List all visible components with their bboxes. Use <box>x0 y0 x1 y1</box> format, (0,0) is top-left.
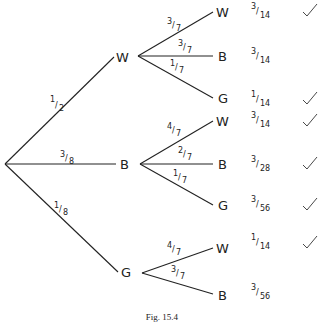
fraction-slash: / <box>59 205 62 214</box>
fraction-slash: / <box>256 200 259 209</box>
result-bb: 3 / 28 <box>251 155 270 173</box>
prob-gb: 3 / 7 <box>171 265 185 281</box>
branch-w-to-w <box>138 12 213 56</box>
leaf-bw: W <box>216 114 229 129</box>
svg-text:7: 7 <box>187 153 192 162</box>
svg-text:14: 14 <box>260 11 270 20</box>
svg-text:14: 14 <box>260 242 270 251</box>
svg-text:28: 28 <box>260 164 270 173</box>
leaf-bg: G <box>218 198 228 213</box>
prob-label-g: 1 / 8 <box>54 201 68 217</box>
fraction-slash: / <box>175 63 178 72</box>
svg-text:7: 7 <box>179 66 184 75</box>
prob-bw: 4 / 7 <box>167 122 181 138</box>
svg-text:7: 7 <box>176 129 181 138</box>
w-subtree: 3 / 7 3 / 7 1 / 7 W B G <box>138 5 229 106</box>
svg-text:14: 14 <box>260 99 270 108</box>
fraction-slash: / <box>256 116 259 125</box>
fraction-slash: / <box>183 150 186 159</box>
level1-probabilities: 1 / 2 3 / 8 1 / 8 <box>50 95 74 217</box>
level1-branches <box>5 57 118 272</box>
fraction-slash: / <box>178 173 181 182</box>
fraction-slash: / <box>256 160 259 169</box>
leaf-wg: G <box>218 91 228 106</box>
svg-text:14: 14 <box>260 56 270 65</box>
node-w: W <box>116 50 129 65</box>
branch-root-to-g <box>5 164 118 272</box>
fraction-slash: / <box>256 52 259 61</box>
check-icon <box>303 4 317 16</box>
svg-text:2: 2 <box>59 104 64 113</box>
svg-text:56: 56 <box>260 204 270 213</box>
level1-nodes: W B G <box>116 50 131 280</box>
prob-bg: 1 / 7 <box>173 169 187 185</box>
prob-ww: 3 / 7 <box>167 17 181 33</box>
leaf-ww: W <box>216 5 229 20</box>
result-column: 3 / 14 3 / 14 1 / 14 3 / 14 3 / 28 3 / 5… <box>251 2 270 301</box>
b-subtree: 4 / 7 2 / 7 1 / 7 W B G <box>140 114 229 213</box>
fraction-slash: / <box>55 101 58 110</box>
result-gw: 1 / 14 <box>251 233 270 251</box>
check-column <box>303 4 317 248</box>
result-bw: 3 / 14 <box>251 111 270 129</box>
fraction-slash: / <box>183 43 186 52</box>
fraction-slash: / <box>172 245 175 254</box>
prob-gw: 4 / 7 <box>167 241 181 257</box>
check-icon <box>303 92 317 104</box>
fraction-slash: / <box>65 154 68 163</box>
result-wb: 3 / 14 <box>251 47 270 65</box>
svg-text:7: 7 <box>182 176 187 185</box>
branch-b-to-w <box>140 121 213 164</box>
svg-text:56: 56 <box>260 292 270 301</box>
check-icon <box>303 236 317 248</box>
leaf-gw: W <box>216 241 229 256</box>
result-ww: 3 / 14 <box>251 2 270 20</box>
fraction-slash: / <box>176 269 179 278</box>
node-b: B <box>120 157 129 172</box>
svg-text:7: 7 <box>176 248 181 257</box>
svg-text:8: 8 <box>69 157 74 166</box>
svg-text:7: 7 <box>180 272 185 281</box>
check-icon <box>303 157 317 169</box>
prob-bb: 2 / 7 <box>178 146 192 162</box>
fraction-slash: / <box>172 21 175 30</box>
svg-text:7: 7 <box>176 24 181 33</box>
fraction-slash: / <box>172 126 175 135</box>
check-icon <box>303 114 317 126</box>
leaf-bb: B <box>218 157 227 172</box>
fraction-slash: / <box>256 238 259 247</box>
prob-wg: 1 / 7 <box>170 59 184 75</box>
result-bg: 3 / 56 <box>251 195 270 213</box>
result-wg: 1 / 14 <box>251 90 270 108</box>
leaf-gb: B <box>218 288 227 303</box>
figure-caption: Fig. 15.4 <box>146 312 179 322</box>
prob-label-w: 1 / 2 <box>50 95 64 113</box>
probability-tree-diagram: 1 / 2 3 / 8 1 / 8 W B G 3 / 7 3 / <box>0 0 323 322</box>
fraction-slash: / <box>256 95 259 104</box>
fraction-slash: / <box>256 7 259 16</box>
node-g: G <box>121 265 131 280</box>
fraction-slash: / <box>256 288 259 297</box>
check-icon <box>303 198 317 210</box>
leaf-wb: B <box>218 49 227 64</box>
prob-wb: 3 / 7 <box>178 39 192 55</box>
svg-text:8: 8 <box>63 208 68 217</box>
svg-text:14: 14 <box>260 120 270 129</box>
g-subtree: 4 / 7 3 / 7 W B <box>142 241 229 303</box>
svg-text:7: 7 <box>187 46 192 55</box>
result-gb: 3 / 56 <box>251 283 270 301</box>
